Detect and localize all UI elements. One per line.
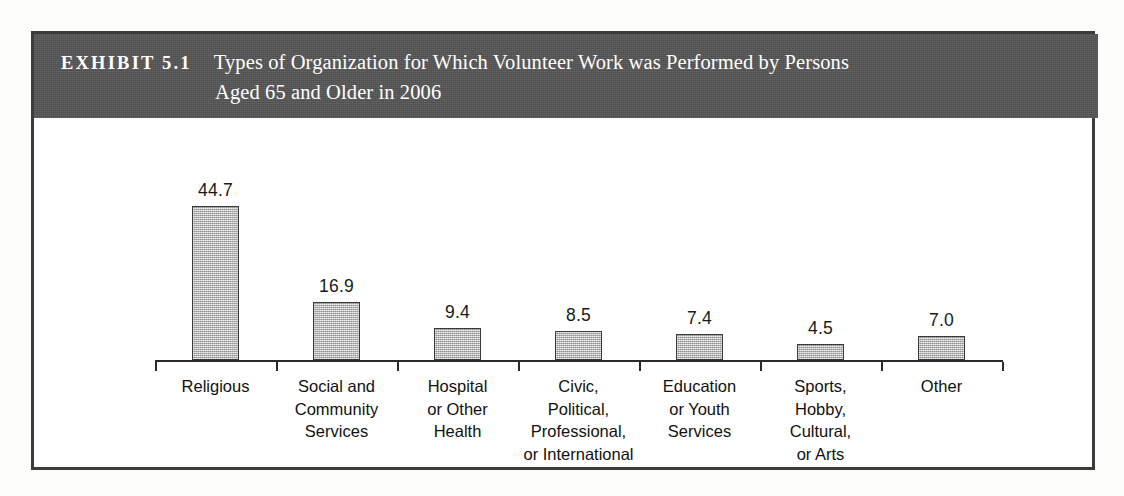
- category-label-line: Services: [636, 420, 763, 443]
- x-axis-category-label: Other: [878, 375, 1005, 398]
- bar-value-label: 7.4: [639, 308, 760, 329]
- bar: [313, 302, 360, 360]
- x-axis-category-label: Sports,Hobby,Cultural,or Arts: [757, 375, 884, 465]
- bar: [918, 336, 965, 360]
- category-label-line: Religious: [152, 375, 279, 398]
- category-label-line: Hospital: [394, 375, 521, 398]
- bar-group: 7.0Other: [881, 118, 1002, 467]
- bar: [434, 328, 481, 360]
- bar-value-label: 44.7: [155, 180, 276, 201]
- bar: [555, 331, 602, 360]
- x-axis-category-label: Hospitalor OtherHealth: [394, 375, 521, 443]
- category-label-line: or International: [515, 443, 642, 466]
- category-label-line: Political,: [515, 398, 642, 421]
- bar-group: 8.5Civic,Political,Professional,or Inter…: [518, 118, 639, 467]
- x-axis-category-label: Social andCommunityServices: [273, 375, 400, 443]
- bar: [192, 206, 239, 360]
- exhibit-frame: EXHIBIT 5.1Types of Organization for Whi…: [31, 31, 1095, 470]
- bar-value-label: 8.5: [518, 305, 639, 326]
- exhibit-title-text-1: Types of Organization for Which Voluntee…: [214, 51, 849, 73]
- category-label-line: Services: [273, 420, 400, 443]
- exhibit-title-line-1: EXHIBIT 5.1Types of Organization for Whi…: [61, 48, 1080, 78]
- bar-group: 9.4Hospitalor OtherHealth: [397, 118, 518, 467]
- category-label-line: Education: [636, 375, 763, 398]
- category-label-line: Cultural,: [757, 420, 884, 443]
- x-axis-category-label: Religious: [152, 375, 279, 398]
- category-label-line: or Arts: [757, 443, 884, 466]
- x-axis-tick: [1002, 362, 1004, 371]
- category-label-line: Sports,: [757, 375, 884, 398]
- bar-value-label: 16.9: [276, 276, 397, 297]
- bar-group: 44.7Religious: [155, 118, 276, 467]
- bar: [797, 344, 844, 360]
- scanned-page-background: EXHIBIT 5.1Types of Organization for Whi…: [0, 0, 1124, 496]
- category-label-line: Civic,: [515, 375, 642, 398]
- bar-value-label: 9.4: [397, 302, 518, 323]
- exhibit-header-band: EXHIBIT 5.1Types of Organization for Whi…: [34, 34, 1098, 118]
- exhibit-number: EXHIBIT 5.1: [61, 53, 192, 73]
- exhibit-title-line-2: Aged 65 and Older in 2006: [61, 78, 1080, 107]
- category-label-line: Health: [394, 420, 521, 443]
- bar-group: 4.5Sports,Hobby,Cultural,or Arts: [760, 118, 881, 467]
- bar-value-label: 7.0: [881, 310, 1002, 331]
- x-axis-category-label: Civic,Political,Professional,or Internat…: [515, 375, 642, 465]
- bar-value-label: 4.5: [760, 318, 881, 339]
- category-label-line: Community: [273, 398, 400, 421]
- bar: [676, 334, 723, 360]
- category-label-line: Professional,: [515, 420, 642, 443]
- category-label-line: Other: [878, 375, 1005, 398]
- bar-chart: 44.7Religious16.9Social andCommunityServ…: [34, 118, 1092, 467]
- category-label-line: or Other: [394, 398, 521, 421]
- category-label-line: Social and: [273, 375, 400, 398]
- bar-group: 16.9Social andCommunityServices: [276, 118, 397, 467]
- category-label-line: Hobby,: [757, 398, 884, 421]
- bar-group: 7.4Educationor YouthServices: [639, 118, 760, 467]
- x-axis-category-label: Educationor YouthServices: [636, 375, 763, 443]
- category-label-line: or Youth: [636, 398, 763, 421]
